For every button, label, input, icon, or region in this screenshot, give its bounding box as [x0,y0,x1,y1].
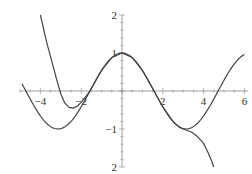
y-tick-label: −1 [105,123,117,135]
y-tick-label: 2 [112,161,118,173]
chart-plot: −4−224621−12 [0,0,252,174]
x-tick-label: 6 [242,95,248,107]
x-tick-label: 4 [201,95,207,107]
x-tick-label: 2 [160,95,166,107]
axes [20,15,248,167]
y-tick-label: 2 [112,9,118,21]
x-tick-label: −4 [35,95,47,107]
